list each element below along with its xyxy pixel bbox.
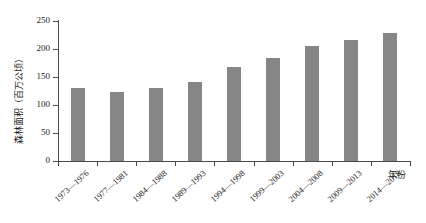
- x-axis-tick: [254, 161, 255, 166]
- plot-area: [58, 21, 410, 161]
- x-axis-tick: [136, 161, 137, 166]
- x-axis-tick: [175, 161, 176, 166]
- x-axis-tick: [214, 161, 215, 166]
- x-axis-tick: [97, 161, 98, 166]
- x-axis-tick-label: 1999—2003: [240, 168, 285, 210]
- x-axis-tick-label: 2009—2013: [319, 168, 364, 210]
- bar: [266, 58, 280, 161]
- x-axis-tick-label: 1994—1998: [201, 168, 246, 210]
- y-axis-tick-label: 0: [10, 156, 50, 165]
- x-axis-tick-label: 1973—1976: [45, 168, 90, 210]
- x-axis-tick: [293, 161, 294, 166]
- bar: [344, 40, 358, 161]
- x-axis-tick: [58, 161, 59, 166]
- x-axis-title: 年份: [388, 168, 406, 181]
- forest-area-bar-chart: 森林面积（百万公顷） 050100150200250 1973—19761977…: [0, 0, 426, 223]
- y-axis-tick-label: 150: [10, 72, 50, 81]
- bar: [149, 88, 163, 161]
- y-axis-tick-label: 250: [10, 16, 50, 25]
- x-axis-tick: [332, 161, 333, 166]
- x-axis-tick-label: 2004—2008: [280, 168, 325, 210]
- y-axis-tick-label: 100: [10, 100, 50, 109]
- bar: [110, 92, 124, 161]
- x-axis-tick: [410, 161, 411, 166]
- y-axis-tick-label: 50: [10, 128, 50, 137]
- x-axis-tick-label: 1989—1993: [162, 168, 207, 210]
- x-axis-tick-label: 1977—1981: [84, 168, 129, 210]
- bar: [305, 46, 319, 161]
- x-axis-tick: [371, 161, 372, 166]
- bar: [188, 82, 202, 161]
- bar: [383, 33, 397, 161]
- x-axis-tick-label: 1984—1988: [123, 168, 168, 210]
- y-axis-tick-label: 200: [10, 44, 50, 53]
- bar: [227, 67, 241, 161]
- bar: [71, 88, 85, 161]
- x-axis-line: [58, 161, 410, 162]
